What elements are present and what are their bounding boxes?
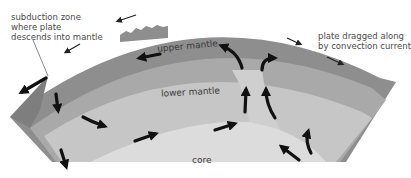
label-plate-1: plate dragged along — [318, 31, 404, 41]
arrow-up-plume-left — [245, 90, 246, 112]
label-subduction-2: where plate — [11, 22, 61, 32]
subduction-leader-line — [33, 40, 48, 76]
label-subduction-1: subduction zone — [11, 12, 81, 22]
label-subduction-3: descends into mantle — [11, 32, 103, 42]
label-core: core — [192, 155, 212, 165]
arrow-surface-left-ridge — [118, 15, 136, 21]
arrow-surface-left — [66, 44, 80, 52]
label-plate-2: by convection current — [318, 41, 411, 51]
arrow-down-left — [56, 94, 58, 110]
arrow-surface-right — [287, 38, 300, 44]
